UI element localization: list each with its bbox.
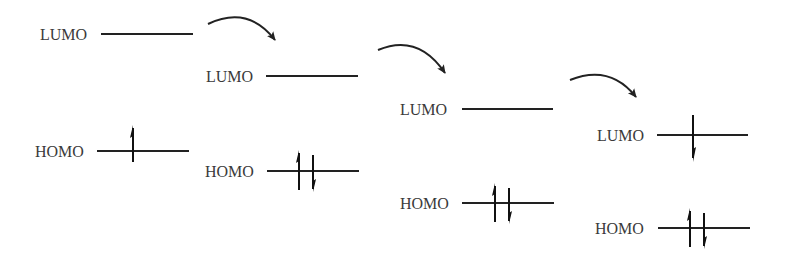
spin-down-arrow-icon [509,188,512,224]
spin-down-arrow-icon [313,155,316,192]
lumo-label: LUMO [40,26,87,43]
spin-up-arrow-icon [130,125,133,162]
spin-down-arrow-icon [704,213,707,249]
transition-arrow-icon [378,45,445,73]
mo-diagram: LUMO HOMO LUMO HOMO LUMO HOMO [0,0,787,264]
homo-label: HOMO [205,163,254,180]
lumo-label: LUMO [597,127,644,144]
stage-4: LUMO HOMO [595,115,750,249]
lumo-label: LUMO [400,101,447,118]
stage-1: LUMO HOMO [35,26,193,162]
transition-arrow-icon [208,17,275,40]
homo-label: HOMO [35,143,84,160]
stage-2: LUMO HOMO [205,68,359,192]
homo-label: HOMO [595,220,644,237]
stage-3: LUMO HOMO [400,101,554,224]
homo-label: HOMO [400,195,449,212]
lumo-label: LUMO [206,68,253,85]
transition-arrow-icon [570,75,636,97]
spin-down-arrow-icon [693,115,696,162]
